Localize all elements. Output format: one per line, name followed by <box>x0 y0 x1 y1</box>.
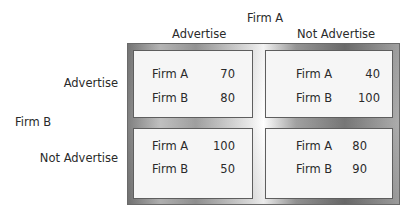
payoff-cell-not-advertise-not-advertise: Firm A 80 Firm B 90 <box>265 128 393 199</box>
payoff-value: 100 <box>358 91 380 105</box>
payoff-value: 50 <box>220 162 235 176</box>
column-player-label: Firm A <box>247 11 283 25</box>
column-strategy-advertise: Advertise <box>172 27 226 41</box>
payoff-cell-advertise-not-advertise: Firm A 40 Firm B 100 <box>265 50 393 118</box>
row-strategy-advertise: Advertise <box>64 76 118 90</box>
payoff-value: 70 <box>220 67 235 81</box>
payoff-firm-label: Firm A <box>296 67 332 81</box>
payoff-cell-advertise-advertise: Firm A 70 Firm B 80 <box>133 50 253 118</box>
payoff-value: 40 <box>365 67 380 81</box>
row-player-label: Firm B <box>15 115 51 129</box>
payoff-firm-label: Firm A <box>296 139 332 153</box>
payoff-value: 80 <box>352 139 367 153</box>
payoff-firm-label: Firm A <box>152 67 188 81</box>
column-strategy-not-advertise: Not Advertise <box>297 27 375 41</box>
payoff-firm-label: Firm B <box>296 162 332 176</box>
payoff-firm-label: Firm A <box>152 139 188 153</box>
payoff-value: 100 <box>213 139 235 153</box>
payoff-cell-not-advertise-advertise: Firm A 100 Firm B 50 <box>133 128 253 199</box>
payoff-value: 80 <box>220 91 235 105</box>
row-strategy-not-advertise: Not Advertise <box>40 151 118 165</box>
payoff-firm-label: Firm B <box>152 91 188 105</box>
payoff-firm-label: Firm B <box>152 162 188 176</box>
payoff-firm-label: Firm B <box>296 91 332 105</box>
payoff-value: 90 <box>352 162 367 176</box>
